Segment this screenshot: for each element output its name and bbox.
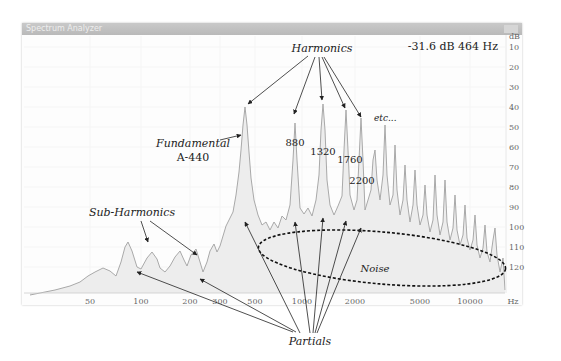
y-tick-label: dB (509, 32, 520, 41)
peak-1760-label: 1760 (337, 154, 362, 165)
y-tick-label: 30 (509, 83, 519, 92)
x-tick-label: 5000 (410, 297, 430, 306)
x-tick-label: 100 (133, 297, 148, 306)
x-tick-label: 2000 (345, 297, 365, 306)
x-tick-label: 500 (247, 297, 262, 306)
x-tick-label: 50 (85, 297, 95, 306)
x-tick-label: Hz (507, 297, 518, 306)
peak-1320-label: 1320 (310, 146, 335, 157)
y-tick-label: 40 (509, 103, 519, 112)
spectrum-trace (30, 104, 505, 295)
harmonics-arrows (248, 56, 361, 117)
y-tick-label: 50 (509, 123, 519, 132)
y-tick-label: 120 (509, 263, 524, 272)
x-axis-ticks: 5010020030050010002000500010000Hz (85, 297, 519, 306)
y-tick-label: 90 (509, 203, 519, 212)
fundamental-sublabel: A-440 (176, 151, 210, 164)
partials-label: Partials (288, 335, 332, 348)
y-tick-label: 60 (509, 143, 519, 152)
sub-harmonics-arrows (141, 221, 197, 255)
x-tick-label: 10000 (457, 297, 482, 306)
y-tick-label: 10 (509, 43, 519, 52)
spectrum-analyzer-figure: Spectrum Analyzer 5010020030050010002000… (0, 0, 561, 361)
y-tick-label: 80 (509, 183, 519, 192)
x-tick-label: 200 (182, 297, 197, 306)
peak-2200-label: 2200 (349, 175, 374, 186)
etc-label: etc... (374, 113, 397, 123)
noise-label: Noise (359, 263, 389, 274)
sub-harmonics-label: Sub-Harmonics (89, 206, 176, 219)
peak-880-label: 880 (285, 137, 304, 148)
y-tick-label: 70 (509, 163, 519, 172)
spectrum-chart: 5010020030050010002000500010000Hz dB1020… (0, 0, 561, 361)
x-tick-label: 1000 (292, 297, 312, 306)
harmonics-label: Harmonics (291, 42, 353, 55)
y-tick-label: 20 (509, 63, 519, 72)
cursor-readout: -31.6 dB 464 Hz (408, 40, 498, 53)
y-axis-ticks: dB102030405060708090100110120 (509, 32, 524, 272)
y-tick-label: 100 (509, 223, 524, 232)
fundamental-label: Fundamental (155, 137, 230, 150)
y-tick-label: 110 (509, 243, 524, 252)
